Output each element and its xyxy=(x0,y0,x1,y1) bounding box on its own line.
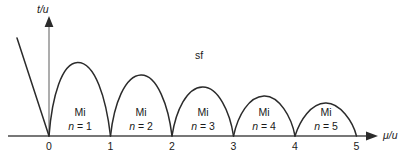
mott-lobe-1-filling: n = 1 xyxy=(68,121,92,132)
mott-lobe-1-label: Mi xyxy=(74,107,85,118)
mott-lobe-4-filling: n = 4 xyxy=(252,121,276,132)
mott-lobe-3-filling: n = 3 xyxy=(191,121,215,132)
mott-lobe-2-filling: n = 2 xyxy=(129,121,153,132)
mott-lobe-4-label: Mi xyxy=(258,107,269,118)
x-tick-label-2: 2 xyxy=(169,141,175,152)
superfluid-region-label: sf xyxy=(195,50,203,61)
y-axis-group xyxy=(45,16,54,136)
x-tick-label-4: 4 xyxy=(292,141,298,152)
y-axis-label: t/u xyxy=(37,4,49,15)
phase-diagram-canvas xyxy=(0,0,420,162)
mott-lobe-3-label: Mi xyxy=(197,107,208,118)
x-axis-arrowhead xyxy=(366,131,378,140)
x-tick-label-0: 0 xyxy=(46,141,52,152)
x-tick-label-1: 1 xyxy=(108,141,114,152)
mott-lobe-2-label: Mi xyxy=(135,107,146,118)
mott-lobe-5-label: Mi xyxy=(320,107,331,118)
x-tick-label-5: 5 xyxy=(354,141,360,152)
x-axis-label: μ/u xyxy=(383,130,398,141)
bose-hubbard-phase-diagram: t/u μ/u sf Mi n = 1 Mi n = 2 Mi n = 3 Mi… xyxy=(0,0,420,162)
x-tick-label-3: 3 xyxy=(231,141,237,152)
y-axis-arrowhead xyxy=(45,16,54,27)
x-axis-group xyxy=(8,131,378,140)
left-boundary-line xyxy=(17,38,49,136)
mott-lobe-5-filling: n = 5 xyxy=(314,121,338,132)
